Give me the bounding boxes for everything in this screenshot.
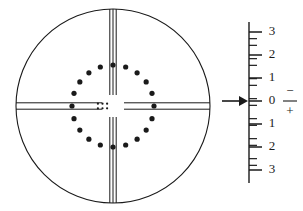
- center-grid-dot: [106, 103, 108, 105]
- polarity-legend: − +: [283, 83, 297, 118]
- horizontal-crosshair: [16, 103, 210, 109]
- ring-dot: [98, 64, 103, 69]
- ring-dot: [71, 116, 76, 121]
- center-grid-dot: [101, 103, 103, 105]
- center-grid-dot: [106, 107, 108, 109]
- center-grid-dot: [97, 107, 99, 109]
- scale-label: 1: [269, 69, 276, 84]
- ring-dot: [135, 70, 140, 75]
- ring-dot: [151, 103, 156, 108]
- scale-label: 3: [269, 161, 276, 176]
- ring-dot: [135, 137, 140, 142]
- ring-dot: [144, 79, 149, 84]
- arrow-head: [239, 96, 248, 106]
- optical-reticle-figure: 3210123 − +: [0, 0, 303, 211]
- indicator-arrow: [222, 96, 248, 106]
- scale-labels: 3210123: [269, 23, 276, 176]
- scale-group: 3210123: [249, 22, 275, 183]
- ring-dot: [144, 128, 149, 133]
- ring-dot: [123, 64, 128, 69]
- ring-dot: [110, 144, 115, 149]
- ring-dot: [149, 116, 154, 121]
- plus-sign: +: [286, 103, 293, 118]
- ring-dot: [110, 62, 115, 67]
- ring-dot: [77, 128, 82, 133]
- ring-dot: [77, 79, 82, 84]
- ring-dot: [86, 70, 91, 75]
- ring-dot: [69, 103, 74, 108]
- center-dot-grid: [97, 103, 108, 110]
- center-grid-dot: [101, 107, 103, 109]
- center-grid-dot: [97, 103, 99, 105]
- minus-sign: −: [286, 83, 293, 98]
- scale-label: 1: [269, 115, 276, 130]
- scale-label: 0: [269, 92, 276, 107]
- ring-dot: [149, 91, 154, 96]
- scale-label: 2: [269, 138, 276, 153]
- scale-label: 3: [269, 23, 276, 38]
- scale-ticks: [249, 32, 262, 170]
- ring-dot: [98, 142, 103, 147]
- reticle-group: [16, 9, 210, 203]
- ring-dot: [86, 137, 91, 142]
- ring-dot: [71, 91, 76, 96]
- scale-label: 2: [269, 46, 276, 61]
- vertical-crosshair: [110, 9, 116, 203]
- ring-dot: [123, 142, 128, 147]
- figure-canvas: 3210123 − +: [0, 0, 303, 211]
